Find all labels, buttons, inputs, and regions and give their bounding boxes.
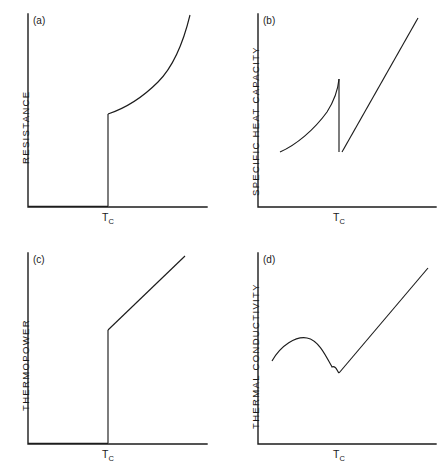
panel-b-ylabel: SPECIFIC HEAT CAPACITY [251,46,261,196]
panel-b-specific-heat-capacity: (b) SPECIFIC HEAT CAPACITY TC [222,0,444,236]
panel-c-xtick-subscript: C [109,454,114,463]
panel-d-xtick-subscript: C [340,454,345,463]
panel-b-xtick-tc: TC [333,212,345,226]
panel-a-xtick-tc: TC [102,212,114,226]
panel-c-axes [28,253,207,444]
panel-a-ylabel: RESISTANCE [21,90,31,164]
panel-b-normal-branch [342,18,418,152]
panel-d-ylabel: THERMAL CONDUCTIVITY [251,283,261,429]
panel-a-resistance: (a) RESISTANCE TC [0,0,222,236]
panel-b-axes [258,14,436,207]
panel-d-thermal-conductivity: (d) THERMAL CONDUCTIVITY TC [222,237,444,473]
panel-d-hump-branch [272,338,339,373]
panel-b-superconducting-branch [280,79,339,152]
panel-c-letter: (c) [33,255,45,265]
panel-c-normal-branch [108,256,185,330]
panel-b-letter: (b) [263,16,275,26]
panel-b-xtick-subscript: C [340,217,345,226]
panel-c-plot [0,237,222,473]
panel-c-xtick-tc: TC [102,449,114,463]
panel-a-normal-branch [108,15,190,114]
figure-four-panel-superconductor-properties: (a) RESISTANCE TC (b) SPECIFIC HEAT CAPA… [0,0,444,473]
panel-d-normal-branch [339,268,428,373]
panel-c-ylabel: THERMOPOWER [21,319,31,411]
panel-a-xtick-subscript: C [109,217,114,226]
panel-d-axes [258,253,436,444]
panel-d-letter: (d) [263,255,275,265]
panel-a-letter: (a) [33,16,45,26]
panel-d-xtick-tc: TC [333,449,345,463]
panel-c-thermopower: (c) THERMOPOWER TC [0,237,222,473]
panel-a-plot [0,0,222,236]
